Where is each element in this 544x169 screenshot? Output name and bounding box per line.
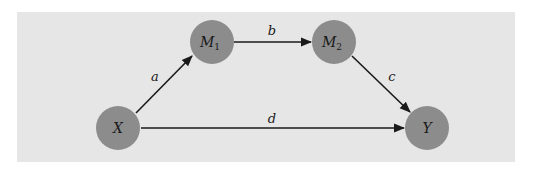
edge-label-a: a: [151, 69, 159, 84]
edge-label-d: d: [268, 111, 276, 126]
mediation-path-diagram: XM1M2Y abcd: [0, 0, 544, 169]
edge-label-b: b: [268, 23, 276, 38]
edge-label-c: c: [388, 69, 396, 84]
node-Y: Y: [405, 106, 449, 150]
node-label-X: X: [112, 120, 124, 136]
node-M2: M2: [312, 20, 356, 64]
node-M1: M1: [190, 20, 234, 64]
node-X: X: [96, 106, 140, 150]
